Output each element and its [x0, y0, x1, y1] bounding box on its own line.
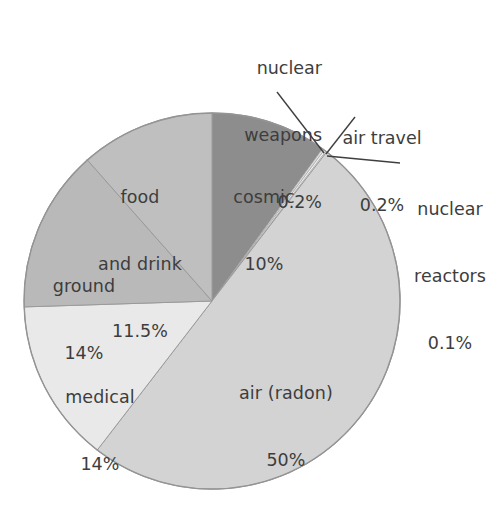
- callout-value-nuclear-weapons: 0.2%: [200, 191, 322, 213]
- slice-label-air-radon: air (radon) 50%: [216, 337, 356, 509]
- slice-value-medical: 14%: [48, 453, 152, 475]
- slice-label-food-and-drink-line1: food: [78, 186, 202, 208]
- slice-value-air-radon: 50%: [216, 449, 356, 471]
- callout-label-nuclear-weapons-line2: weapons: [200, 124, 322, 146]
- slice-label-air-radon-line1: air (radon): [216, 382, 356, 404]
- callout-label-air-travel-line1: air travel: [330, 127, 434, 149]
- slice-label-medical: medical 14%: [48, 341, 152, 509]
- callout-label-nuclear-reactors-line1: nuclear: [404, 198, 496, 220]
- pie-chart-figure: food and drink 11.5% cosmic 10% ground 1…: [0, 0, 498, 509]
- slice-label-medical-line1: medical: [48, 386, 152, 408]
- callout-value-nuclear-reactors: 0.1%: [404, 332, 496, 354]
- callout-label-nuclear-reactors-line2: reactors: [404, 265, 496, 287]
- slice-label-ground-line1: ground: [36, 275, 132, 297]
- callout-label-nuclear-weapons-line1: nuclear: [200, 57, 322, 79]
- callout-label-nuclear-weapons: nuclear weapons 0.2%: [200, 12, 322, 258]
- callout-label-nuclear-reactors: nuclear reactors 0.1%: [404, 153, 496, 399]
